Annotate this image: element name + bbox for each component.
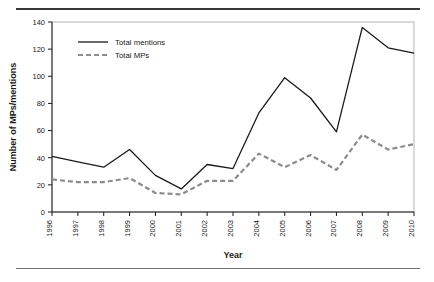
chart-plot-wrapper: 020406080100120140 199619971998199920002… xyxy=(0,14,434,264)
x-tick-label: 2010 xyxy=(407,220,416,237)
y-axis-title: Number of MPs/mentions xyxy=(8,63,18,172)
x-tick-label: 1996 xyxy=(45,220,54,237)
y-tick-label: 60 xyxy=(37,126,45,135)
y-tick-label: 80 xyxy=(37,99,45,108)
line-chart: 020406080100120140 199619971998199920002… xyxy=(0,14,434,264)
y-tick-label: 100 xyxy=(32,72,45,81)
y-axis-ticks: 020406080100120140 xyxy=(32,18,52,217)
x-tick-label: 1998 xyxy=(97,220,106,237)
x-tick-label: 2005 xyxy=(278,220,287,237)
figure-container: 020406080100120140 199619971998199920002… xyxy=(0,0,434,282)
x-tick-label: 1997 xyxy=(71,220,80,237)
x-axis-title: Year xyxy=(223,250,243,260)
y-tick-label: 20 xyxy=(37,181,45,190)
x-tick-label: 2000 xyxy=(148,220,157,237)
figure-top-rule xyxy=(16,8,420,10)
x-tick-label: 2007 xyxy=(329,220,338,237)
y-tick-label: 140 xyxy=(32,18,45,27)
x-tick-label: 2008 xyxy=(355,220,364,237)
y-tick-label: 120 xyxy=(32,45,45,54)
x-tick-label: 2003 xyxy=(226,220,235,237)
x-tick-label: 1999 xyxy=(123,220,132,237)
x-tick-label: 2009 xyxy=(381,220,390,237)
x-tick-label: 2001 xyxy=(174,220,183,237)
figure-bottom-rule xyxy=(16,268,420,269)
y-tick-label: 0 xyxy=(41,208,45,217)
x-tick-label: 2002 xyxy=(200,220,209,237)
x-tick-label: 2004 xyxy=(252,220,261,237)
plot-area-border xyxy=(52,22,414,212)
y-tick-label: 40 xyxy=(37,154,45,163)
legend-label: Total mentions xyxy=(115,38,165,47)
x-tick-label: 2006 xyxy=(304,220,313,237)
legend-label: Total MPs xyxy=(115,51,149,60)
x-axis-ticks: 1996199719981999200020012002200320042005… xyxy=(45,212,416,237)
